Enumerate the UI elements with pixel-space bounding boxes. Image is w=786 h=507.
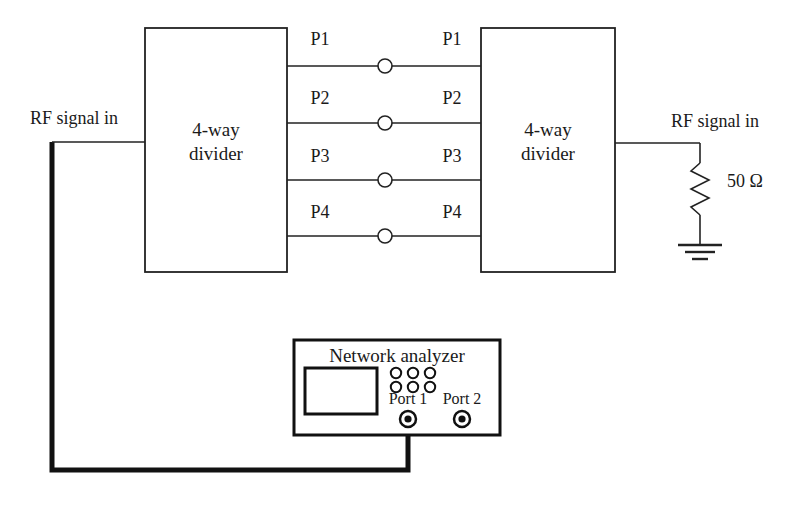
connector-icon-3 [378,173,392,187]
port-label-left-3: P3 [310,146,329,166]
schematic-canvas: RF signal in 4-way divider 4-way divider… [0,0,786,507]
port-label-right-1: P1 [442,29,461,49]
port-label-left-1: P1 [310,29,329,49]
left-divider-label-line2: divider [189,143,243,164]
rf-signal-in-left-label: RF signal in [30,108,118,128]
analyzer-title: Network analyzer [329,345,465,366]
port-label-left-4: P4 [310,202,329,222]
resistor-icon [691,163,709,215]
transmission-line-2: P2 P2 [287,88,481,130]
connector-icon-1 [378,59,392,73]
rf-setup-diagram: RF signal in 4-way divider 4-way divider… [0,0,786,507]
knob-icon-3[interactable] [425,368,435,378]
knob-icon-2[interactable] [408,368,418,378]
transmission-line-1: P1 P1 [287,29,481,73]
network-analyzer: Network analyzer Port 1 Port 2 [294,340,500,435]
port-label-left-2: P2 [310,88,329,108]
knob-icon-1[interactable] [391,368,401,378]
termination-load: 50 Ω [678,143,763,259]
transmission-line-4: P4 P4 [287,202,481,243]
load-value-label: 50 Ω [727,171,763,191]
port2-connector-center [458,415,465,422]
port-label-right-3: P3 [442,146,461,166]
port-label-right-4: P4 [442,202,461,222]
analyzer-port2-label: Port 2 [443,390,482,407]
transmission-line-3: P3 P3 [287,146,481,187]
port-label-right-2: P2 [442,88,461,108]
right-divider-label-line2: divider [521,143,575,164]
right-divider-label-line1: 4-way [524,119,572,140]
port1-connector-center [404,415,411,422]
rf-signal-in-right-label: RF signal in [671,111,759,131]
connector-icon-2 [378,116,392,130]
connector-icon-4 [378,229,392,243]
analyzer-port1-label: Port 1 [389,390,428,407]
left-divider-label-line1: 4-way [192,119,240,140]
analyzer-display-screen [305,368,377,414]
